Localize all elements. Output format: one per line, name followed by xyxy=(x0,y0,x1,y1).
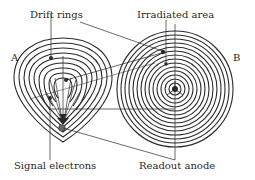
label-drift-rings: Drift rings xyxy=(30,10,83,20)
label-view-a: A xyxy=(11,53,18,63)
label-irradiated-area: Irradiated area xyxy=(137,10,214,20)
detector-diagram: Drift rings Irradiated area A B Signal e… xyxy=(0,0,255,180)
anode-a-icon xyxy=(59,125,66,132)
label-signal-electrons: Signal electrons xyxy=(14,161,96,171)
diagram-graphic xyxy=(0,0,255,180)
label-view-b: B xyxy=(233,53,240,63)
label-readout-anode: Readout anode xyxy=(139,161,215,171)
